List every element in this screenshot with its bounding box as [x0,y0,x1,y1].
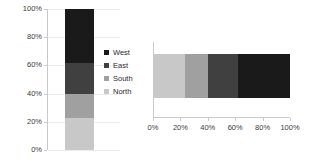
vertical-chart-y-tick-label: 80% [2,33,42,41]
stacked-bar-segment-south[interactable] [185,54,208,98]
legend-item-north[interactable]: North [104,85,150,98]
stacked-column-segment-west[interactable] [65,9,94,63]
horizontal-chart-x-tick-label: 80% [248,124,278,132]
vertical-chart-y-tick-label: 40% [2,90,42,98]
horizontal-chart-x-tick [290,118,291,121]
stacked-bar-segment-west[interactable] [238,54,290,98]
legend-item-label: North [113,88,131,96]
vertical-chart-y-tick [44,37,47,38]
legend-item-south[interactable]: South [104,72,150,85]
chart-canvas: 100%80%60%40%20%0% WestEastSouthNorth 0%… [0,0,309,161]
horizontal-chart-x-tick [180,118,181,121]
horizontal-chart-x-tick [235,118,236,121]
horizontal-chart-x-tick-label: 40% [193,124,223,132]
legend-item-label: West [113,49,130,57]
legend-swatch-icon [104,89,109,94]
horizontal-chart-x-tick-label: 60% [220,124,250,132]
legend-item-west[interactable]: West [104,46,150,59]
vertical-chart-y-tick [44,9,47,10]
legend-swatch-icon [104,50,109,55]
chart-legend: WestEastSouthNorth [104,46,150,98]
vertical-chart-y-tick-label: 0% [2,146,42,154]
horizontal-chart-plot-area [153,42,290,117]
vertical-chart-y-axis-labels: 100%80%60%40%20%0% [0,0,42,161]
legend-item-label: South [113,75,133,83]
stacked-bar[interactable] [153,54,290,98]
stacked-column[interactable] [65,9,94,150]
vertical-chart-y-tick-label: 60% [2,62,42,70]
horizontal-chart-x-tick-label: 20% [165,124,195,132]
vertical-chart-y-tick [44,94,47,95]
horizontal-chart-x-tick-label: 100% [275,124,305,132]
legend-swatch-icon [104,76,109,81]
vertical-chart-y-tick-label: 100% [2,5,42,13]
stacked-column-segment-south[interactable] [65,94,94,118]
stacked-column-segment-north[interactable] [65,118,94,150]
vertical-chart-y-tick [44,150,47,151]
horizontal-chart-x-tick [208,118,209,121]
stacked-column-segment-east[interactable] [65,63,94,94]
horizontal-chart-x-axis-line [153,117,290,118]
horizontal-stacked-bar-chart: 0%20%40%60%80%100% [150,0,309,161]
stacked-bar-segment-north[interactable] [153,54,185,98]
horizontal-chart-x-tick [263,118,264,121]
vertical-chart-y-tick-label: 20% [2,118,42,126]
stacked-bar-segment-east[interactable] [208,54,238,98]
horizontal-chart-x-tick-label: 0% [138,124,168,132]
legend-swatch-icon [104,63,109,68]
horizontal-chart-x-tick [153,118,154,121]
vertical-chart-gridline [48,150,120,151]
legend-item-label: East [113,62,128,70]
vertical-chart-y-tick [44,122,47,123]
legend-item-east[interactable]: East [104,59,150,72]
vertical-chart-y-tick [44,65,47,66]
